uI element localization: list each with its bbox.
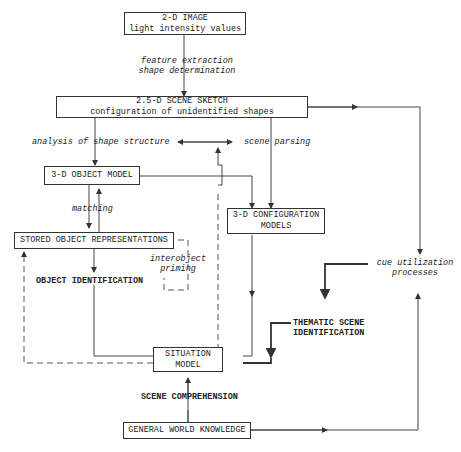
scene-parsing-label: scene parsing [244, 137, 310, 147]
thematic-scene-identification-label: THEMATIC SCENE IDENTIFICATION [293, 318, 364, 338]
priming-line1: interobject [148, 254, 208, 264]
scene-comprehension-label: SCENE COMPREHENSION [141, 392, 238, 402]
feature-line2: shape determination [132, 66, 242, 76]
image-2d-title: 2-D IMAGE [162, 13, 208, 24]
stored-title: STORED OBJECT REPRESENTATIONS [20, 235, 168, 246]
priming-line2: priming [148, 264, 208, 274]
world-title: GENERAL WORLD KNOWLEDGE [128, 425, 245, 436]
general-world-knowledge-box: GENERAL WORLD KNOWLEDGE [123, 422, 251, 439]
object-model-title: 3-D OBJECT MODEL [51, 170, 133, 181]
scene-sketch-title: 2.5-D SCENE SKETCH [136, 96, 228, 107]
stored-object-representations-box: STORED OBJECT REPRESENTATIONS [14, 232, 174, 249]
config-line2: MODELS [261, 221, 292, 232]
cue-line2: processes [370, 268, 460, 278]
matching-label: matching [72, 204, 113, 214]
feature-line1: feature extraction [132, 56, 242, 66]
thematic-line1: THEMATIC SCENE [293, 318, 364, 328]
cue-utilization-label: cue utilization processes [370, 258, 460, 278]
object-identification-label: OBJECT IDENTIFICATION [36, 276, 143, 286]
object-model-3d-box: 3-D OBJECT MODEL [44, 166, 140, 185]
situation-line1: SITUATION [165, 349, 211, 360]
situation-line2: MODEL [175, 360, 201, 371]
analysis-label: analysis of shape structure [32, 137, 170, 147]
image-2d-box: 2-D IMAGE light intensity values [124, 12, 246, 35]
image-2d-subtitle: light intensity values [129, 24, 241, 35]
interobject-priming-label: interobject priming [148, 254, 208, 274]
configuration-models-3d-box: 3-D CONFIGURATION MODELS [227, 208, 325, 234]
feature-extraction-label: feature extraction shape determination [132, 56, 242, 76]
scene-sketch-subtitle: configuration of unidentified shapes [90, 107, 274, 118]
scene-sketch-25d-box: 2.5-D SCENE SKETCH configuration of unid… [56, 96, 308, 118]
config-line1: 3-D CONFIGURATION [233, 210, 320, 221]
thematic-line2: IDENTIFICATION [293, 328, 364, 338]
situation-model-box: SITUATION MODEL [153, 347, 223, 372]
cue-line1: cue utilization [370, 258, 460, 268]
